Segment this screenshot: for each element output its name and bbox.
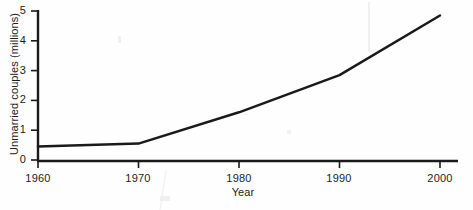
x-tick-label-1960: 1960 [15,172,61,184]
y-axis-title: Unmarried couples (millions) [8,8,20,160]
x-tick-label-1990: 1990 [316,172,362,184]
x-tick-label-1970: 1970 [115,172,161,184]
x-axis-title: Year [200,186,286,198]
x-tick-label-1980: 1980 [216,172,262,184]
x-tick-label-2000: 2000 [417,172,463,184]
line-chart-figure: 5 4 3 2 1 0 1960 1970 1980 1990 2000 Unm… [0,0,473,210]
data-line-unmarried-couples [38,16,440,147]
